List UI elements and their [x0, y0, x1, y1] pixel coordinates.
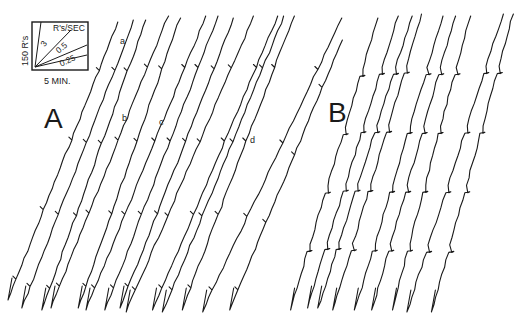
cumulative-record	[105, 16, 218, 310]
key-x-label: 5 MIN.	[44, 76, 71, 86]
cumulative-record	[354, 16, 443, 310]
key-rate-title: R's/SEC	[53, 23, 85, 33]
panel-label-b: B	[328, 97, 347, 128]
cumulative-record	[393, 16, 471, 310]
cumulative-record	[153, 16, 278, 310]
cumulative-record	[431, 14, 513, 312]
cumulative-record	[203, 18, 342, 312]
cumulative-record	[86, 16, 206, 310]
rate-key: R's/SEC 3 0.5 0.25 150 R's 5 MIN.	[20, 22, 88, 86]
cumulative-record	[333, 14, 422, 310]
cumulative-record	[182, 16, 294, 310]
panel-b-records	[291, 14, 514, 312]
cumulative-record	[230, 40, 343, 310]
cumulative-record	[407, 14, 504, 312]
panel-label-a: A	[44, 103, 63, 134]
curve-label-d: d	[250, 135, 255, 145]
key-y-label: 150 R's	[20, 35, 30, 66]
figure: R's/SEC 3 0.5 0.25 150 R's 5 MIN. A B a …	[0, 0, 529, 318]
key-rate-3: 3	[38, 38, 49, 48]
cumulative-record	[78, 18, 180, 308]
cumulative-record	[42, 20, 146, 310]
curve-label-a: a	[120, 36, 125, 46]
cumulative-record	[120, 18, 233, 308]
